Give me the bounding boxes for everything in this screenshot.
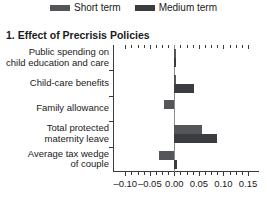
bar [174, 49, 175, 58]
x-tick-minor [144, 172, 145, 175]
x-tick-label: 0.10 [214, 178, 233, 189]
x-tick-minor-top [168, 45, 169, 48]
x-tick-minor-top [193, 45, 194, 48]
y-tick [109, 70, 113, 71]
category-label: Average tax wedge of couple [0, 149, 109, 170]
x-tick-major [248, 172, 249, 176]
x-tick-minor [162, 172, 163, 175]
x-tick-minor [242, 172, 243, 175]
x-tick-minor [131, 172, 132, 175]
x-tick-major [150, 172, 151, 176]
chart-figure: Short term Medium term 1. Effect of Prec… [0, 0, 267, 202]
x-tick-label: 0.00 [165, 178, 184, 189]
x-tick-major-top [125, 45, 126, 49]
x-tick-minor [230, 172, 231, 175]
x-tick-minor-top [180, 45, 181, 48]
x-tick-major [174, 172, 175, 176]
x-tick-major-top [248, 45, 249, 49]
x-tick-minor [205, 172, 206, 175]
x-tick-label: –0.05 [138, 178, 162, 189]
bar [164, 100, 175, 109]
x-tick-minor-top [217, 45, 218, 48]
bar [159, 151, 174, 160]
bar [174, 75, 175, 84]
legend-item-short-term: Short term [50, 2, 121, 13]
x-tick-major-top [199, 45, 200, 49]
x-tick-label: 0.05 [190, 178, 209, 189]
x-tick-major-top [223, 45, 224, 49]
y-tick [109, 147, 113, 148]
legend-swatch-short-term [50, 5, 70, 11]
y-tick [109, 121, 113, 122]
legend-item-medium-term: Medium term [135, 2, 217, 13]
bar [174, 160, 176, 169]
x-tick-minor-top [230, 45, 231, 48]
x-tick-minor-top [187, 45, 188, 48]
x-tick-label: 0.15 [239, 178, 258, 189]
bar [174, 58, 176, 67]
x-tick-minor [211, 172, 212, 175]
chart-legend: Short term Medium term [0, 2, 267, 13]
x-tick-minor [217, 172, 218, 175]
x-tick-minor-top [205, 45, 206, 48]
x-tick-major [223, 172, 224, 176]
category-label: Public spending on child education and c… [0, 47, 109, 68]
x-tick-minor-top [138, 45, 139, 48]
x-tick-minor [180, 172, 181, 175]
x-tick-minor [138, 172, 139, 175]
category-label: Family allowance [0, 103, 109, 114]
x-tick-minor-top [156, 45, 157, 48]
bar [174, 134, 216, 143]
x-tick-label: –0.10 [113, 178, 137, 189]
x-tick-major [199, 172, 200, 176]
y-tick [109, 96, 113, 97]
x-tick-minor-top [131, 45, 132, 48]
x-tick-minor [236, 172, 237, 175]
legend-label-short-term: Short term [74, 2, 121, 13]
x-tick-minor-top [242, 45, 243, 48]
bar [174, 125, 202, 134]
x-tick-major-top [150, 45, 151, 49]
category-label: Total protected maternity leave [0, 123, 109, 144]
category-label: Child-care benefits [0, 78, 109, 89]
plot-frame [113, 45, 259, 172]
plot-area [113, 45, 259, 172]
legend-label-medium-term: Medium term [159, 2, 217, 13]
x-tick-minor [187, 172, 188, 175]
x-tick-minor-top [162, 45, 163, 48]
x-tick-minor-top [211, 45, 212, 48]
legend-swatch-medium-term [135, 5, 155, 11]
x-tick-minor-top [144, 45, 145, 48]
x-tick-minor [193, 172, 194, 175]
x-tick-major [125, 172, 126, 176]
x-tick-minor [156, 172, 157, 175]
x-tick-minor-top [236, 45, 237, 48]
x-tick-minor [168, 172, 169, 175]
bar [174, 84, 194, 93]
chart-title: 1. Effect of Precrisis Policies [6, 29, 150, 41]
